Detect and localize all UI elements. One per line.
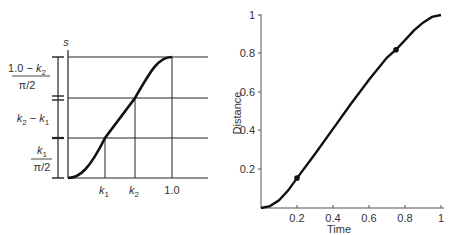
right-chart: 0.2 0.4 0.6 0.8 1 0.2 0.4 0.6 0.8 1 Time… [231,9,444,235]
ease-curve [68,57,172,178]
s-axis-label: s [63,36,69,48]
x-tick-one: 1.0 [164,184,179,196]
y-axis-label: Distance [231,92,243,135]
num-prefix: 1.0 − [8,62,36,74]
y-tick-label: 1 [249,9,255,21]
denominator: π/2 [34,161,51,173]
data-point-marker [294,175,300,181]
denominator: π/2 [19,79,36,91]
b-sub: 1 [45,118,50,127]
minus: − [27,112,40,124]
svg-text:k1: k1 [37,144,48,159]
distance-curve [261,15,441,208]
data-point-marker [393,47,399,53]
x-tick-k1: k1 [99,184,110,199]
x-tick-k2: k2 [129,184,140,199]
y-tick-label: 0.2 [240,163,255,175]
x-tick-label: 0.2 [289,212,304,224]
x-tick-label: 0.8 [397,212,412,224]
svg-text:1.0 − k2: 1.0 − k2 [8,62,46,77]
num-sub: 1 [43,150,48,159]
segment-label-accel: k1 π/2 [31,144,52,173]
svg-text:k2 − k1: k2 − k1 [17,112,50,127]
x-axis-label: Time [327,223,351,235]
left-diagram: s 1.0 − k2 π/2 k2 − k1 [8,36,208,199]
x-tick-label: 0.6 [361,212,376,224]
x-tick-label: 1 [438,212,444,224]
segment-label-constant: k2 − k1 [17,112,50,127]
y-tick-label: 0.8 [240,47,255,59]
segment-label-decel: 1.0 − k2 π/2 [8,62,50,91]
figure-canvas: s 1.0 − k2 π/2 k2 − k1 [0,0,459,235]
